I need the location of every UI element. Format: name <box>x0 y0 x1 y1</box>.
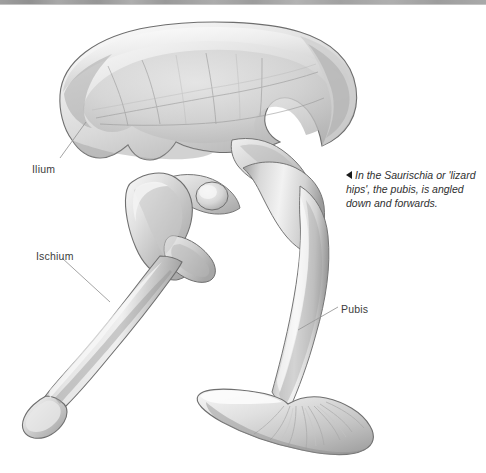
label-pubis: Pubis <box>341 303 368 315</box>
label-ischium: Ischium <box>36 250 74 262</box>
pelvis-illustration <box>0 0 486 473</box>
figure-caption: In the Saurischia or 'lizard hips', the … <box>346 168 480 211</box>
figure-panel: Ilium Ischium Pubis In the Saurischia or… <box>0 0 486 473</box>
label-ilium: Ilium <box>32 163 55 175</box>
leader-line-ischium <box>62 258 110 302</box>
caption-line-4: forwards. <box>394 197 437 209</box>
bone-ischium <box>22 173 215 438</box>
caption-line-1: In the Saurischia or <box>355 169 445 181</box>
left-triangle-icon <box>346 171 352 179</box>
bone-ilium <box>60 22 357 160</box>
